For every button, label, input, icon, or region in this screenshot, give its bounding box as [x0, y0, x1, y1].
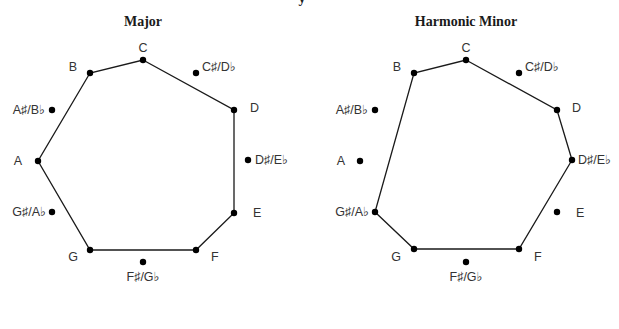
note-label-c: C	[461, 41, 470, 55]
note-dot-a-sharp-b-flat	[372, 107, 378, 113]
note-label-g: G	[68, 250, 78, 264]
note-dot-d-sharp-e-flat	[245, 157, 251, 163]
diagram-title: Harmonic Minor	[415, 14, 517, 29]
note-label-b: B	[69, 60, 77, 74]
note-dot-f	[516, 246, 522, 252]
note-label-a: A	[14, 154, 23, 168]
note-label-c: C	[138, 41, 147, 55]
note-dot-f-sharp-g-flat	[463, 259, 469, 265]
note-dot-a	[35, 158, 41, 164]
note-dot-e	[231, 210, 237, 216]
note-label-e: E	[576, 206, 584, 220]
note-dot-c-sharp-d-flat	[516, 70, 522, 76]
note-label-f: F	[534, 250, 542, 264]
note-dot-g-sharp-a-flat	[372, 209, 378, 215]
note-dot-d	[554, 107, 560, 113]
note-dot-c	[140, 57, 146, 63]
note-dot-c	[463, 57, 469, 63]
note-dot-g	[411, 246, 417, 252]
scale-polygon	[375, 60, 572, 249]
note-dot-g	[87, 247, 93, 253]
note-label-d: D	[572, 101, 581, 115]
clipped-top-text: y	[299, 0, 306, 6]
note-label-a: A	[337, 154, 346, 168]
note-dot-a-sharp-b-flat	[49, 107, 55, 113]
note-label-d-sharp-e-flat: D♯/E♭	[578, 153, 611, 167]
note-label-g-sharp-a-flat: G♯/A♭	[335, 205, 369, 219]
note-dot-e	[554, 209, 560, 215]
note-dot-b	[87, 70, 93, 76]
major-scale-diagram: MajorCC♯/D♭DD♯/E♭EFF♯/G♭GG♯/A♭AA♯/B♭B	[12, 14, 288, 284]
note-dot-b	[411, 70, 417, 76]
diagram-title: Major	[124, 14, 162, 29]
note-label-a-sharp-b-flat: A♯/B♭	[336, 103, 368, 117]
note-dot-d-sharp-e-flat	[569, 157, 575, 163]
note-label-g: G	[391, 250, 401, 264]
scale-diagrams: y MajorCC♯/D♭DD♯/E♭EFF♯/G♭GG♯/A♭AA♯/B♭B …	[0, 0, 619, 329]
note-label-g-sharp-a-flat: G♯/A♭	[12, 205, 46, 219]
harmonic-minor-scale-diagram: Harmonic MinorCC♯/D♭DD♯/E♭EFF♯/G♭GG♯/A♭A…	[335, 14, 611, 284]
note-dot-a	[357, 158, 363, 164]
note-label-f: F	[211, 250, 219, 264]
note-label-e: E	[253, 206, 261, 220]
note-label-c-sharp-d-flat: C♯/D♭	[202, 60, 236, 74]
note-label-f-sharp-g-flat: F♯/G♭	[450, 270, 483, 284]
note-dot-f-sharp-g-flat	[140, 259, 146, 265]
note-label-d: D	[250, 101, 259, 115]
note-label-f-sharp-g-flat: F♯/G♭	[127, 270, 160, 284]
note-dot-c-sharp-d-flat	[193, 70, 199, 76]
note-dot-d	[231, 107, 237, 113]
note-label-a-sharp-b-flat: A♯/B♭	[13, 103, 45, 117]
note-label-d-sharp-e-flat: D♯/E♭	[255, 153, 288, 167]
note-dot-g-sharp-a-flat	[49, 209, 55, 215]
note-label-b: B	[393, 60, 401, 74]
note-dot-f	[193, 247, 199, 253]
scale-polygon	[38, 60, 234, 250]
note-label-c-sharp-d-flat: C♯/D♭	[525, 60, 559, 74]
